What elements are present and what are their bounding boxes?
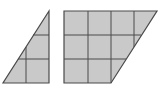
triangle-shape: [3, 11, 49, 83]
quadrilateral-shape: [64, 11, 157, 83]
grid-shapes-diagram: [0, 0, 163, 90]
